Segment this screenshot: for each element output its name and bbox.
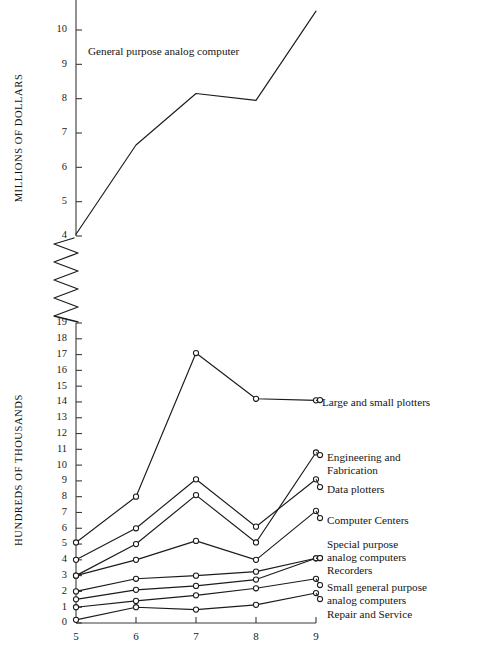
lower-y-tick-label-4: 4: [62, 553, 68, 564]
lower-y-tick-label-13: 13: [57, 411, 68, 422]
x-axis-tick-labels: 56789: [73, 630, 319, 642]
leader-marker-small-general-purpose-analog-computers: [317, 582, 322, 587]
x-tick-label-9: 9: [313, 630, 319, 642]
upper-y-tick-label-9: 9: [62, 58, 67, 69]
lower-y-tick-label-3: 3: [62, 569, 67, 580]
series-label-large-and-small-plotters: Large and small plotters: [322, 396, 430, 408]
lower-y-tick-label-7: 7: [62, 506, 67, 517]
chart-canvas: 10987654 MILLIONS OF DOLLARS General pur…: [0, 0, 478, 653]
upper-y-tick-label-6: 6: [62, 161, 67, 172]
x-axis-ticks: [76, 617, 316, 623]
series-label-small-general-purpose-line2: analog computers: [327, 594, 406, 606]
lower-y-tick-label-14: 14: [57, 395, 68, 406]
chart-figure: 10987654 MILLIONS OF DOLLARS General pur…: [0, 0, 478, 653]
x-tick-label-5: 5: [73, 630, 79, 642]
annotation-general-purpose-analog-computer: General purpose analog computer: [88, 45, 240, 57]
lower-series-group: [76, 353, 316, 620]
series-line-engineering-and-fabrication: [76, 452, 316, 575]
series-label-data-plotters: Data plotters: [327, 483, 384, 495]
series-label-computer-centers: Computer Centers: [327, 514, 409, 526]
marker-special-purpose-analog-computers-x8: [253, 569, 258, 574]
leader-marker-engineering-and-fabrication: [317, 452, 322, 457]
label-leader-lines: [316, 397, 323, 601]
marker-repair-and-service-x6: [133, 605, 138, 610]
leader-marker-data-plotters: [317, 484, 322, 489]
marker-data-plotters-x6: [133, 526, 138, 531]
lower-y-tick-label-8: 8: [62, 490, 67, 501]
lower-y-tick-label-18: 18: [57, 332, 68, 343]
upper-y-axis-title: MILLIONS OF DOLLARS: [13, 74, 24, 203]
lower-y-tick-label-17: 17: [57, 348, 68, 359]
marker-recorders-x5: [73, 597, 78, 602]
upper-y-axis-ticks: [76, 30, 82, 236]
lower-y-axis-tick-labels: 191817161514131211109876543210: [57, 316, 68, 627]
marker-data-plotters-x8: [253, 524, 258, 529]
series-labels-group: Large and small plotters Engineering and…: [322, 396, 430, 620]
lower-y-tick-label-16: 16: [57, 364, 68, 375]
lower-y-tick-label-1: 1: [62, 601, 67, 612]
upper-y-tick-label-4: 4: [62, 229, 68, 240]
lower-y-tick-label-9: 9: [62, 474, 67, 485]
marker-special-purpose-analog-computers-x7: [193, 573, 198, 578]
marker-large-and-small-plotters-x6: [133, 494, 138, 499]
marker-data-plotters-x7: [193, 477, 198, 482]
axis-break-zigzag: [54, 238, 78, 322]
marker-repair-and-service-x7: [193, 607, 198, 612]
lower-y-tick-label-15: 15: [57, 380, 68, 391]
lower-series-markers: [73, 350, 318, 622]
series-label-engineering-and-fabrication-line1: Engineering and: [327, 451, 401, 463]
marker-engineering-and-fabrication-x8: [253, 540, 258, 545]
marker-computer-centers-x5: [73, 573, 78, 578]
x-tick-label-6: 6: [133, 630, 139, 642]
marker-computer-centers-x8: [253, 557, 258, 562]
upper-y-tick-label-8: 8: [62, 92, 67, 103]
marker-data-plotters-x5: [73, 557, 78, 562]
leader-marker-computer-centers: [317, 515, 322, 520]
marker-small-general-purpose-analog-computers-x8: [253, 586, 258, 591]
lower-y-tick-label-5: 5: [62, 537, 67, 548]
series-line-data-plotters: [76, 479, 316, 560]
lower-y-tick-label-11: 11: [57, 443, 67, 454]
marker-repair-and-service-x5: [73, 617, 78, 622]
marker-special-purpose-analog-computers-x5: [73, 589, 78, 594]
lower-y-tick-label-0: 0: [62, 616, 67, 627]
series-label-recorders: Recorders: [327, 564, 372, 576]
marker-recorders-x8: [253, 577, 258, 582]
marker-special-purpose-analog-computers-x6: [133, 576, 138, 581]
lower-y-tick-label-12: 12: [57, 427, 68, 438]
marker-large-and-small-plotters-x7: [193, 350, 198, 355]
series-label-special-purpose-line2: analog computers: [327, 551, 406, 563]
lower-y-tick-label-10: 10: [57, 459, 68, 470]
lower-chart-panel: 191817161514131211109876543210 56789 HUN…: [13, 316, 323, 642]
leader-marker-recorders: [317, 555, 322, 560]
lower-y-axis-title: HUNDREDS OF THOUSANDS: [13, 394, 24, 546]
upper-y-tick-label-5: 5: [62, 195, 67, 206]
marker-computer-centers-x6: [133, 557, 138, 562]
lower-y-tick-label-6: 6: [62, 522, 67, 533]
series-label-engineering-and-fabrication-line2: Fabrication: [327, 464, 378, 476]
marker-recorders-x7: [193, 583, 198, 588]
series-label-special-purpose-line1: Special purpose: [327, 538, 398, 550]
upper-chart-panel: 10987654 MILLIONS OF DOLLARS General pur…: [13, 0, 316, 240]
leader-marker-repair-and-service: [317, 596, 322, 601]
series-label-repair-and-service: Repair and Service: [327, 608, 412, 620]
upper-y-axis-tick-labels: 10987654: [57, 23, 68, 240]
upper-y-tick-label-7: 7: [62, 126, 67, 137]
marker-engineering-and-fabrication-x7: [193, 493, 198, 498]
lower-y-tick-label-2: 2: [62, 585, 67, 596]
lower-y-tick-label-19: 19: [57, 316, 68, 327]
marker-repair-and-service-x8: [253, 602, 258, 607]
series-line-large-and-small-plotters: [76, 353, 316, 542]
marker-small-general-purpose-analog-computers-x6: [133, 598, 138, 603]
marker-small-general-purpose-analog-computers-x7: [193, 593, 198, 598]
x-tick-label-8: 8: [253, 630, 259, 642]
marker-engineering-and-fabrication-x6: [133, 541, 138, 546]
marker-large-and-small-plotters-x8: [253, 396, 258, 401]
marker-computer-centers-x7: [193, 538, 198, 543]
series-label-small-general-purpose-line1: Small general purpose: [327, 581, 427, 593]
x-tick-label-7: 7: [193, 630, 199, 642]
upper-y-tick-label-10: 10: [57, 23, 68, 34]
marker-small-general-purpose-analog-computers-x5: [73, 605, 78, 610]
marker-large-and-small-plotters-x5: [73, 540, 78, 545]
marker-recorders-x6: [133, 587, 138, 592]
